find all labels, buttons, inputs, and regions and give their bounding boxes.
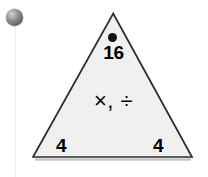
top-number-label: 16 xyxy=(0,43,208,62)
fact-triangle-canvas: 16 ×, ÷ 4 4 xyxy=(0,0,208,177)
bottom-left-number-label: 4 xyxy=(56,136,67,155)
operations-label: ×, ÷ xyxy=(0,90,208,112)
bottom-right-number-label: 4 xyxy=(153,136,164,155)
apex-dot-icon xyxy=(108,33,117,42)
